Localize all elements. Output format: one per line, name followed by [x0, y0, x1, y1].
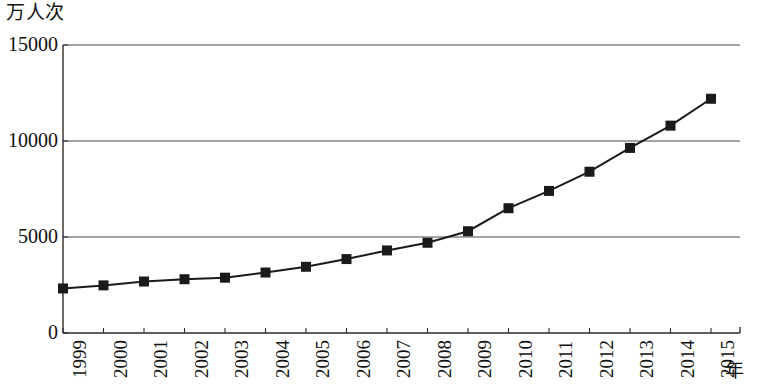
x-axis-unit-label: 年 — [725, 361, 744, 380]
x-axis-tick-label: 2000 — [111, 340, 130, 378]
data-point-marker — [58, 283, 68, 293]
series-markers — [58, 94, 716, 294]
data-point-marker — [423, 238, 433, 248]
data-point-marker — [382, 245, 392, 255]
data-point-marker — [585, 167, 595, 177]
x-axis-tick-label: 2014 — [678, 340, 697, 378]
x-axis-tick-label: 2011 — [556, 341, 575, 378]
x-axis-tick-label: 2013 — [637, 340, 656, 378]
data-point-marker — [463, 226, 473, 236]
plot-area — [0, 0, 759, 384]
data-point-marker — [261, 268, 271, 278]
x-axis-tick-label: 2005 — [313, 340, 332, 378]
data-point-marker — [99, 280, 109, 290]
axis-lines — [63, 45, 740, 333]
x-axis-tick-label: 2006 — [354, 340, 373, 378]
x-axis-tick-label: 1999 — [70, 340, 89, 378]
x-axis-tick-label: 2008 — [435, 340, 454, 378]
x-axis-tick-label: 2009 — [475, 340, 494, 378]
x-axis-ticks — [63, 328, 711, 333]
data-point-marker — [504, 203, 514, 213]
data-point-marker — [139, 277, 149, 287]
x-axis-tick-label: 2003 — [232, 340, 251, 378]
line-chart: 万人次 050001000015000 19992000200120022003… — [0, 0, 759, 384]
x-axis-tick-label: 2010 — [516, 340, 535, 378]
x-axis-tick-label: 2001 — [151, 340, 170, 378]
x-axis-tick-label: 2007 — [394, 340, 413, 378]
data-point-marker — [625, 143, 635, 153]
data-point-marker — [544, 186, 554, 196]
data-point-marker — [706, 94, 716, 104]
gridlines — [63, 45, 740, 237]
x-axis-tick-label: 2002 — [192, 340, 211, 378]
data-point-marker — [666, 121, 676, 131]
x-axis-tick-label: 2012 — [597, 340, 616, 378]
data-line — [63, 99, 711, 289]
series-line — [63, 99, 711, 289]
data-point-marker — [301, 262, 311, 272]
data-point-marker — [220, 273, 230, 283]
data-point-marker — [180, 274, 190, 284]
data-point-marker — [342, 254, 352, 264]
x-axis-tick-label: 2004 — [273, 340, 292, 378]
